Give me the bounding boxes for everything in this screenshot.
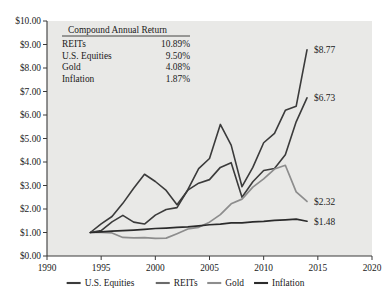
y-tick-label: $8.00 — [20, 63, 41, 73]
x-tick-label: 2000 — [146, 263, 165, 273]
y-tick-label: $7.00 — [20, 87, 41, 97]
legend-row-label: REITs — [62, 39, 86, 49]
legend-row-value: 4.08% — [166, 62, 190, 72]
end-label-reits: $8.77 — [314, 45, 335, 55]
legend-row-value: 10.89% — [161, 39, 190, 49]
x-tick-label: 2015 — [308, 263, 327, 273]
legend-row-value: 9.50% — [166, 51, 190, 61]
x-tick-label: 2020 — [363, 263, 382, 273]
y-tick-label: $5.00 — [20, 134, 41, 144]
x-tick-label: 1995 — [92, 263, 111, 273]
x-tick-label: 1990 — [38, 263, 57, 273]
legend-label-reits: REITs — [174, 278, 198, 288]
legend-row-label: Inflation — [62, 74, 95, 84]
legend-label-gold: Gold — [225, 278, 244, 288]
x-tick-label: 2005 — [200, 263, 219, 273]
y-tick-label: $10.00 — [15, 16, 41, 26]
legend-row-value: 1.87% — [166, 74, 190, 84]
legend-label-u-s-equities: U.S. Equities — [85, 278, 135, 288]
end-label-gold: $2.32 — [314, 197, 335, 207]
chart-canvas: $0.00$1.00$2.00$3.00$4.00$5.00$6.00$7.00… — [0, 0, 391, 299]
y-tick-label: $4.00 — [20, 157, 41, 167]
legend-label-inflation: Inflation — [272, 278, 305, 288]
legend-row-label: Gold — [62, 62, 81, 72]
y-tick-label: $9.00 — [20, 40, 41, 50]
y-tick-label: $6.00 — [20, 110, 41, 120]
y-tick-label: $3.00 — [20, 181, 41, 191]
y-tick-label: $0.00 — [20, 251, 41, 261]
end-label-u-s-equities: $6.73 — [314, 93, 335, 103]
end-label-inflation: $1.48 — [314, 217, 335, 227]
y-tick-label: $2.00 — [20, 204, 41, 214]
x-tick-label: 2010 — [254, 263, 273, 273]
legend-row-label: U.S. Equities — [62, 51, 112, 61]
legend-table-title: Compound Annual Return — [68, 25, 167, 35]
investment-growth-chart: $0.00$1.00$2.00$3.00$4.00$5.00$6.00$7.00… — [0, 0, 391, 299]
y-tick-label: $1.00 — [20, 228, 41, 238]
